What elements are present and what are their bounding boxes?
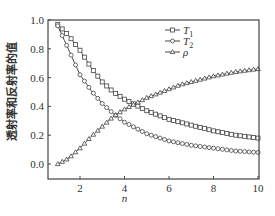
triangle-marker <box>171 85 176 89</box>
y-tick-label: 0.6 <box>30 72 44 84</box>
circle-marker <box>87 85 91 89</box>
square-marker <box>212 129 216 133</box>
circle-marker <box>176 141 180 145</box>
x-tick-label: 8 <box>211 182 217 194</box>
y-tick-label: 1.0 <box>30 14 44 26</box>
square-marker <box>252 136 256 140</box>
circle-marker <box>203 145 207 149</box>
circle-marker <box>65 43 69 47</box>
circle-marker <box>229 148 233 152</box>
triangle-marker <box>193 78 198 82</box>
circle-marker <box>56 24 60 28</box>
plot-frame <box>48 20 259 179</box>
circle-marker <box>238 149 242 153</box>
triangle-marker <box>180 82 185 86</box>
circle-marker <box>127 123 131 127</box>
square-marker <box>229 132 233 136</box>
square-marker <box>100 80 104 84</box>
square-marker <box>238 134 242 138</box>
y-tick-label: 0.0 <box>30 158 44 170</box>
circle-marker <box>171 140 175 144</box>
square-marker <box>216 130 220 134</box>
square-marker <box>87 62 91 66</box>
square-marker <box>234 133 238 137</box>
circle-marker <box>78 73 82 77</box>
square-marker <box>167 117 171 121</box>
square-marker <box>158 114 162 118</box>
triangle-marker <box>242 68 247 72</box>
circle-marker <box>109 110 113 114</box>
circle-marker <box>185 142 189 146</box>
square-marker <box>123 97 127 101</box>
circle-marker <box>225 148 229 152</box>
square-marker <box>145 109 149 113</box>
legend-item-rho: ρ <box>165 46 188 58</box>
square-marker <box>109 88 113 92</box>
square-marker <box>220 131 224 135</box>
triangle-marker <box>162 88 167 92</box>
square-marker <box>225 131 229 135</box>
circle-marker <box>158 136 162 140</box>
square-marker <box>194 124 198 128</box>
circle-marker <box>82 79 86 83</box>
circle-marker <box>171 39 175 43</box>
series-line <box>58 24 258 138</box>
square-marker <box>163 116 167 120</box>
square-marker <box>171 28 175 32</box>
circle-marker <box>69 53 73 57</box>
triangle-marker <box>153 92 158 96</box>
square-marker <box>127 100 131 104</box>
square-marker <box>74 42 78 46</box>
circle-marker <box>123 120 127 124</box>
circle-marker <box>220 147 224 151</box>
circle-marker <box>234 149 238 153</box>
square-marker <box>171 119 175 123</box>
circle-marker <box>60 34 64 38</box>
square-marker <box>189 123 193 127</box>
triangle-marker <box>233 69 238 73</box>
square-marker <box>91 68 95 72</box>
circle-marker <box>105 106 109 110</box>
plot-area <box>55 22 260 165</box>
circle-marker <box>91 91 95 95</box>
circle-marker <box>252 150 256 154</box>
triangle-marker <box>251 67 256 71</box>
triangle-marker <box>198 77 203 81</box>
axes: 0.00.20.40.60.81.0246810n透射率和反射率的值 <box>5 14 264 204</box>
square-marker <box>243 134 247 138</box>
triangle-marker <box>256 67 261 71</box>
circle-marker <box>180 142 184 146</box>
circle-marker <box>247 150 251 154</box>
triangle-marker <box>176 83 181 87</box>
triangle-marker <box>149 94 154 98</box>
triangle-marker <box>170 50 175 54</box>
circle-marker <box>163 138 167 142</box>
circle-marker <box>198 144 202 148</box>
triangle-marker <box>167 87 172 91</box>
circle-marker <box>145 132 149 136</box>
circle-marker <box>149 133 153 137</box>
square-marker <box>154 112 158 116</box>
triangle-marker <box>189 80 194 84</box>
circle-marker <box>136 127 140 131</box>
triangle-marker <box>202 76 207 80</box>
circle-marker <box>74 63 78 67</box>
square-marker <box>176 120 180 124</box>
triangle-marker <box>207 75 212 79</box>
circle-marker <box>140 129 144 133</box>
square-marker <box>60 27 64 31</box>
square-marker <box>105 84 109 88</box>
square-marker <box>114 91 118 95</box>
x-tick-label: 10 <box>253 182 265 194</box>
square-marker <box>69 37 73 41</box>
x-axis-label: n <box>122 192 128 204</box>
square-marker <box>247 135 251 139</box>
square-marker <box>65 32 69 36</box>
circle-marker <box>194 144 198 148</box>
y-tick-label: 0.2 <box>30 129 44 141</box>
triangle-marker <box>118 110 123 114</box>
square-marker <box>118 94 122 98</box>
legend-item-T2: T2 <box>165 35 193 50</box>
triangle-marker <box>113 113 118 117</box>
triangle-marker <box>64 157 69 161</box>
